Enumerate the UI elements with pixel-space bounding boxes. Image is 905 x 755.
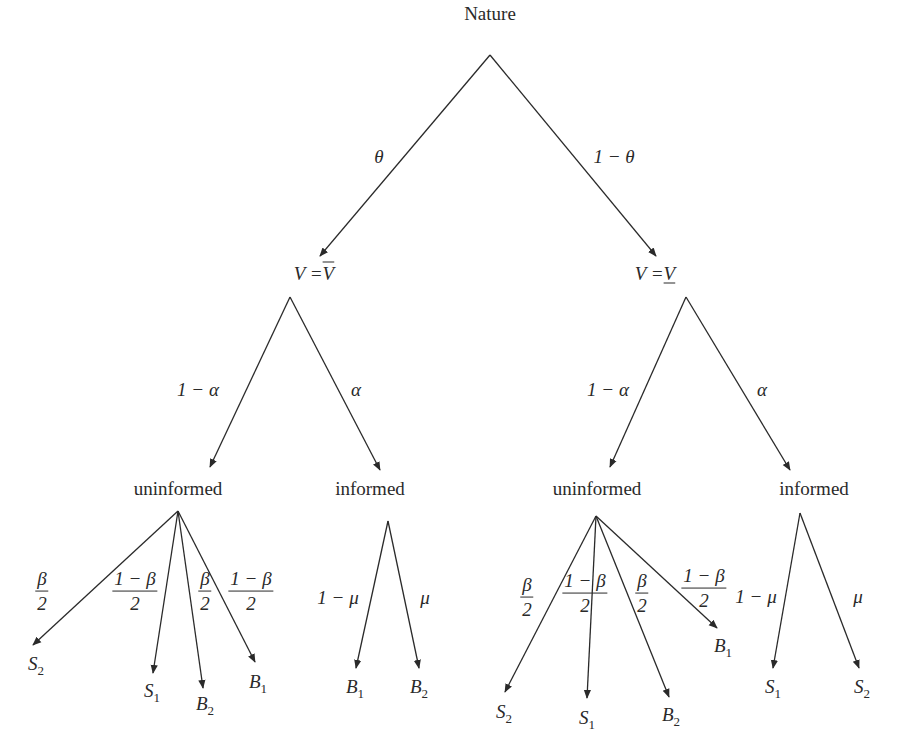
prob-right-unin-s2: β2 [520, 575, 533, 620]
edge-right-informed [686, 297, 790, 470]
outcome-left-unin-s2: S2 [28, 654, 44, 677]
prob-right-inf-one-minus-mu: 1 − μ [735, 587, 776, 606]
node-right-informed: informed [779, 479, 849, 498]
node-rhs-overline: V [323, 263, 335, 284]
prob-left-unin-b1: 1 − β2 [228, 569, 273, 614]
edge-left-uninformed [210, 297, 290, 467]
node-left-informed: informed [335, 479, 405, 498]
edge-label-right-one-minus-alpha: 1 − α [587, 380, 629, 399]
edge-left-informed [290, 297, 380, 470]
node-left-uninformed: uninformed [134, 479, 223, 498]
outcome-right-unin-b1: B1 [714, 636, 732, 659]
edge-label-one-minus-theta: 1 − θ [593, 147, 634, 166]
outcome-left-unin-s1: S1 [144, 681, 160, 704]
outcome-left-unin-b2: B2 [196, 694, 214, 717]
outcome-right-unin-s1: S1 [579, 708, 595, 731]
prob-left-inf-mu: μ [420, 588, 430, 607]
node-right-uninformed: uninformed [553, 479, 642, 498]
prob-right-unin-b1: 1 − β2 [681, 566, 726, 611]
edge-theta [320, 55, 490, 256]
edge-label-theta: θ [374, 147, 383, 166]
prob-right-unin-b2: β2 [635, 571, 648, 616]
outcome-left-unin-b1: B1 [249, 672, 267, 695]
outcome-right-unin-b2: B2 [662, 705, 680, 728]
prob-right-unin-s1: 1 − β2 [562, 571, 607, 616]
outcome-right-inf-s2: S2 [854, 677, 870, 700]
outcome-left-inf-b1: B1 [346, 677, 364, 700]
outcome-left-inf-b2: B2 [410, 677, 428, 700]
edge-label-right-alpha: α [757, 380, 767, 399]
root-node-nature: Nature [464, 4, 516, 23]
node-lhs: V = [635, 263, 664, 284]
prob-left-unin-s2: β2 [35, 569, 48, 614]
node-rhs-underline: V [664, 263, 676, 284]
node-lhs: V = [294, 263, 323, 284]
node-v-equals-vunder: V =V [635, 264, 675, 283]
prob-left-unin-b2: β2 [198, 569, 211, 614]
outcome-right-inf-s1: S1 [765, 677, 781, 700]
edge-label-left-alpha: α [351, 380, 361, 399]
node-v-equals-vbar: V =V [294, 264, 334, 283]
outcome-right-unin-s2: S2 [496, 702, 512, 725]
prob-left-inf-one-minus-mu: 1 − μ [317, 588, 358, 607]
prob-right-inf-mu: μ [853, 587, 863, 606]
prob-left-unin-s1: 1 − β2 [112, 569, 157, 614]
edge-label-left-one-minus-alpha: 1 − α [177, 380, 219, 399]
tree-edges [0, 0, 905, 755]
